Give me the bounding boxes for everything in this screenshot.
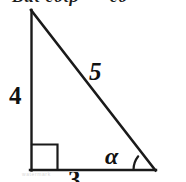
- horizontal-leg-label-clip: 3: [68, 172, 108, 182]
- angle-alpha-label: α: [105, 144, 118, 168]
- hypotenuse-label: 5: [89, 59, 102, 84]
- triangle-diagram-screenshot: But cotβ=co= 4 5 α 3 watermark: [0, 0, 186, 182]
- vertical-leg-label: 4: [9, 83, 22, 108]
- scan-watermark: watermark: [22, 171, 51, 177]
- right-triangle-figure: [0, 0, 186, 182]
- triangle-svg: [0, 0, 186, 182]
- alpha-arc: [133, 156, 138, 170]
- horizontal-leg-label: 3: [68, 172, 81, 182]
- hypotenuse-line: [31, 10, 156, 171]
- right-angle-marker: [32, 145, 58, 170]
